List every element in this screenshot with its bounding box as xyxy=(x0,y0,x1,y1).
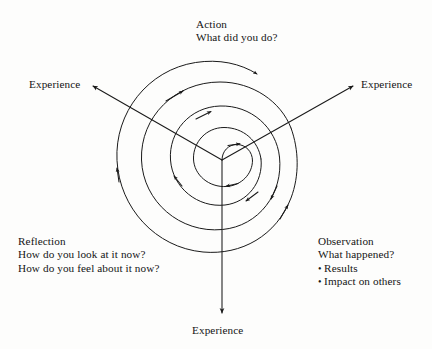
reflection-question-1: How do you look at it now? xyxy=(18,248,159,261)
experience-right-text: Experience xyxy=(361,78,412,91)
action-question: What did you do? xyxy=(196,31,277,44)
experience-bottom-text: Experience xyxy=(192,324,243,337)
observation-heading: Observation xyxy=(318,235,401,248)
observation-bullet-item: •Results xyxy=(318,262,401,275)
spiral-direction-arrows xyxy=(117,91,288,219)
experience-label-bottom: Experience xyxy=(192,324,243,337)
experience-label-right: Experience xyxy=(361,78,412,91)
reflection-label-block: Reflection How do you look at it now? Ho… xyxy=(18,235,159,275)
spiral-arrow-outer-right xyxy=(271,186,277,199)
action-heading: Action xyxy=(196,18,277,31)
reflection-question-2: How do you feel about it now? xyxy=(18,262,159,275)
spiral-arrow-outermost-lowerright xyxy=(280,205,288,219)
spiral-arrow-middle-bottomright xyxy=(246,192,258,201)
spiral-turn-0 xyxy=(222,145,253,161)
observation-bullet-text: Results xyxy=(324,262,358,274)
action-label-block: Action What did you do? xyxy=(196,18,277,45)
spiral-diagram-graphic xyxy=(0,0,432,349)
experience-left-text: Experience xyxy=(29,78,80,91)
spiral-arrow-middle-top xyxy=(196,112,211,120)
spiral-arrow-outer-top xyxy=(166,91,183,101)
observation-label-block: Observation What happened? •Results •Imp… xyxy=(318,235,401,289)
experience-label-left: Experience xyxy=(29,78,80,91)
spiral-arrow-middle-bottomleft xyxy=(174,176,182,186)
experience-ray-upper-right xyxy=(222,86,353,160)
observation-bullet-item: •Impact on others xyxy=(318,275,401,288)
spiral-turn-3 xyxy=(141,82,291,230)
spiral-turn-4-outer xyxy=(117,61,297,252)
observation-question: What happened? xyxy=(318,248,401,261)
diagram-canvas: Action What did you do? Experience Exper… xyxy=(0,0,432,349)
observation-bullet-text: Impact on others xyxy=(324,275,401,287)
experience-ray-upper-left xyxy=(93,86,222,160)
reflection-heading: Reflection xyxy=(18,235,159,248)
spiral-turn-2 xyxy=(170,106,279,205)
